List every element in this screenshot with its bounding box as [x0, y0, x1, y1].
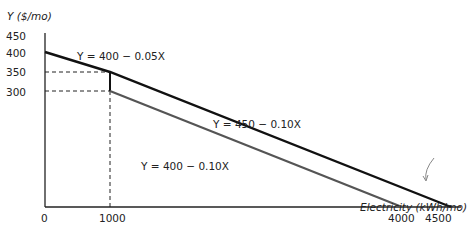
line-400-010x: [110, 91, 402, 207]
x-tick-4000: 4000: [388, 212, 415, 224]
eq-400-005x: Y = 400 − 0.05X: [76, 50, 165, 62]
x-tick-1000: 1000: [99, 212, 126, 224]
y-axis-label: Y ($/mo): [7, 10, 52, 22]
y-tick-450: 450: [6, 30, 26, 42]
eq-450-010x: Y = 450 − 0.10X: [212, 118, 301, 130]
budget-constraint-chart: Y ($/mo) 450 400 350 300 0 1000 4000 450…: [0, 0, 468, 232]
eq-400-010x: Y = 400 − 0.10X: [140, 160, 229, 172]
y-tick-300: 300: [6, 86, 26, 98]
x-axis-label: Electricity (kWh/mo): [360, 201, 467, 213]
y-tick-350: 350: [6, 66, 26, 78]
x-tick-4500: 4500: [425, 212, 452, 224]
y-tick-400: 400: [6, 47, 26, 59]
x-tick-0: 0: [41, 212, 48, 224]
